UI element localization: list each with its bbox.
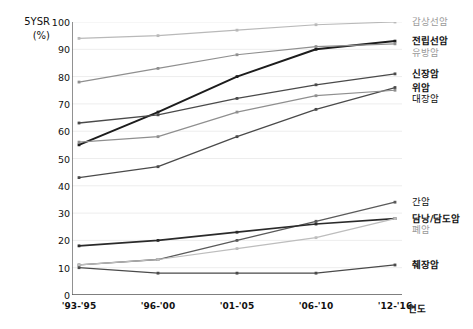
data-point (236, 29, 239, 32)
data-point (236, 111, 239, 114)
x-tick-1: '96-'00 (141, 301, 175, 311)
data-point (236, 97, 239, 100)
legend-label-9: 췌장암 (412, 259, 439, 270)
data-point (236, 75, 239, 78)
data-point (236, 53, 239, 56)
data-point (78, 143, 81, 146)
data-point (394, 86, 397, 89)
x-tick-4: '12-'16 (378, 301, 412, 311)
data-point (394, 42, 397, 45)
data-point (157, 258, 160, 261)
data-point (394, 217, 397, 220)
data-point (315, 272, 318, 275)
data-point (157, 34, 160, 37)
y-tick-80: 80 (44, 71, 70, 82)
data-point (394, 264, 397, 267)
legend-label-6: 간암 (412, 196, 430, 207)
x-tick-0: '93-'95 (62, 301, 96, 311)
data-point (78, 244, 81, 247)
data-point (315, 223, 318, 226)
legend-label-4: 위암 (412, 82, 430, 93)
y-tick-90: 90 (44, 44, 70, 55)
data-point (394, 40, 397, 43)
y-tick-70: 70 (44, 98, 70, 109)
legend-label-2: 유방암 (412, 47, 439, 58)
legend-label-7: 담낭/담도암 (412, 213, 460, 224)
data-point (394, 22, 397, 23)
y-tick-40: 40 (44, 180, 70, 191)
legend-label-0: 갑상선암 (412, 16, 448, 27)
data-point (394, 89, 397, 92)
data-point (315, 23, 318, 26)
data-point (78, 264, 81, 267)
data-point (315, 220, 318, 223)
legend-label-1: 전립선암 (412, 35, 448, 46)
data-point (78, 266, 81, 269)
y-tick-0: 0 (44, 290, 70, 301)
legend-label-8: 폐암 (412, 224, 430, 235)
data-point (315, 236, 318, 239)
line-chart-svg (72, 22, 402, 295)
y-tick-50: 50 (44, 153, 70, 164)
data-point (78, 176, 81, 179)
y-tick-20: 20 (44, 235, 70, 246)
y-tick-10: 10 (44, 262, 70, 273)
data-point (394, 72, 397, 75)
y-tick-60: 60 (44, 126, 70, 137)
y-axis-tick-labels: 1009080706050403020100 (40, 22, 70, 295)
data-point (315, 48, 318, 51)
data-point (236, 247, 239, 250)
data-point (394, 201, 397, 204)
chart-container: 5YSR (%) 1009080706050403020100 '93-'95'… (0, 0, 473, 329)
y-tick-30: 30 (44, 208, 70, 219)
data-point (157, 67, 160, 70)
y-tick-100: 100 (44, 17, 70, 28)
data-point (315, 83, 318, 86)
data-point (157, 239, 160, 242)
data-point (157, 165, 160, 168)
x-axis-title: 연도 (408, 301, 426, 315)
data-point (78, 141, 81, 144)
data-point (78, 81, 81, 84)
data-point (236, 272, 239, 275)
legend-label-5: 대장암 (412, 93, 439, 104)
series-line-4 (79, 88, 395, 178)
data-point (157, 113, 160, 116)
data-point (157, 135, 160, 138)
data-point (236, 135, 239, 138)
data-point (157, 272, 160, 275)
data-point (315, 45, 318, 48)
data-point (236, 231, 239, 234)
data-point (78, 122, 81, 125)
x-tick-2: '01-'05 (220, 301, 254, 311)
plot-area (72, 22, 402, 295)
x-axis-tick-labels: '93-'95'96-'00'01-'05'06-'10'12-'16 (72, 301, 402, 317)
data-point (236, 239, 239, 242)
x-tick-3: '06-'10 (299, 301, 333, 311)
data-point (157, 111, 160, 114)
data-point (315, 94, 318, 97)
data-point (315, 108, 318, 111)
data-point (78, 37, 81, 40)
legend-label-3: 신장암 (412, 68, 439, 79)
